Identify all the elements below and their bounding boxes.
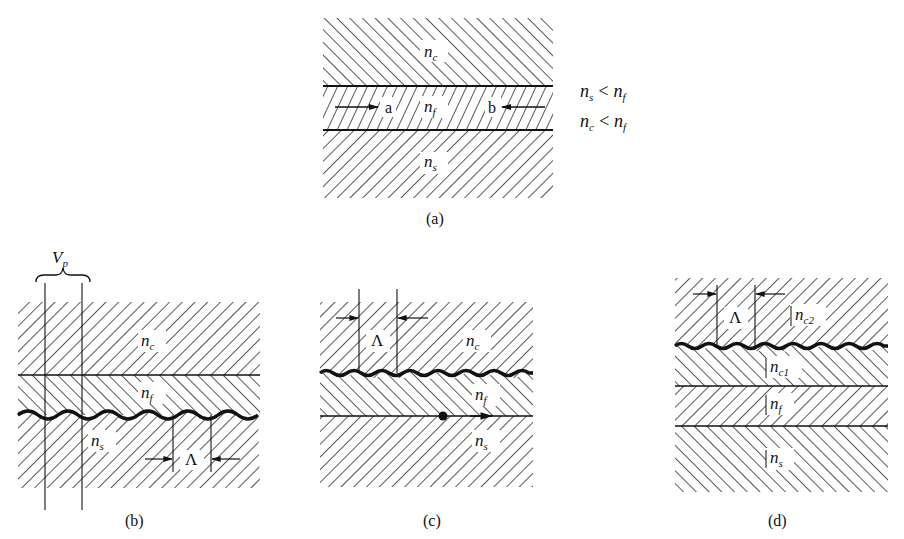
cover-layer: [320, 302, 533, 379]
substrate-layer: [18, 411, 260, 488]
waveguide-figure: nc nf ns a b ns<nf nc<nf (a) Vp nc nf ns…: [0, 0, 904, 539]
substrate-layer: [320, 416, 533, 487]
ray-label-b: b: [488, 99, 496, 116]
film-layer: [320, 372, 533, 417]
panel-c: Λ nc nf ns (c): [320, 289, 533, 530]
panel-a: nc nf ns a b ns<nf nc<nf (a): [323, 18, 628, 228]
panel-b: Vp nc nf ns Λ (b): [18, 248, 260, 530]
ray-label-a: a: [385, 99, 392, 116]
condition-ns-lt-nf: ns<nf: [580, 81, 627, 103]
caption-d: (d): [768, 512, 787, 530]
caption-c: (c): [423, 512, 441, 530]
bracket-icon: [36, 268, 90, 282]
caption-b: (b): [125, 512, 144, 530]
label-vp: Vp: [52, 248, 68, 269]
period-label: Λ: [371, 331, 384, 350]
caption-a: (a): [426, 210, 444, 228]
scatter-point-icon: [439, 412, 448, 421]
period-label: Λ: [729, 308, 742, 327]
panel-d: Λ nc2 nc1 nf ns (d): [675, 278, 888, 530]
period-label: Λ: [185, 450, 198, 469]
cover2-layer: [675, 278, 888, 352]
condition-nc-lt-nf: nc<nf: [580, 111, 628, 133]
